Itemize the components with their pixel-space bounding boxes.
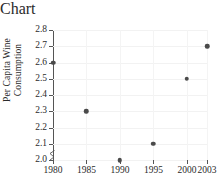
y-axis-tick-label: 2.5 xyxy=(35,74,47,84)
y-axis-tick xyxy=(49,95,53,96)
y-axis-tick-label: 2.7 xyxy=(35,42,47,52)
x-axis-title: Year xyxy=(0,181,220,182)
x-axis-tick xyxy=(207,160,208,164)
y-axis-tick xyxy=(49,111,53,112)
y-axis-tick xyxy=(49,144,53,145)
x-axis-tick-label: 1980 xyxy=(44,166,63,176)
data-point xyxy=(205,44,210,49)
x-axis-tick-label: 1995 xyxy=(144,166,163,176)
y-axis-tick-label: 2.0 xyxy=(35,155,47,165)
x-axis-tick-label: 2000 xyxy=(177,166,196,176)
data-point xyxy=(51,60,56,65)
y-axis-tick-label: 2.6 xyxy=(35,58,47,68)
y-axis-tick-label: 2.8 xyxy=(35,25,47,35)
data-point xyxy=(84,109,89,114)
x-axis-tick-label: 1990 xyxy=(110,166,129,176)
x-axis-tick xyxy=(153,160,154,164)
data-point xyxy=(151,142,156,147)
x-axis-tick-label: 1985 xyxy=(77,166,96,176)
x-axis-tick-label: 2003 xyxy=(198,166,217,176)
y-axis-tick-label: 2.2 xyxy=(35,123,47,133)
gridline-horizontal xyxy=(53,63,207,64)
data-point xyxy=(118,158,123,163)
y-axis-tick-label: 2.4 xyxy=(35,90,47,100)
y-axis-tick xyxy=(49,128,53,129)
gridline-horizontal xyxy=(53,46,207,47)
gridline-vertical xyxy=(187,30,188,160)
gridline-vertical xyxy=(120,30,121,160)
y-axis-tick xyxy=(49,46,53,47)
data-point xyxy=(185,77,190,82)
gridline-horizontal xyxy=(53,144,207,145)
axis-break-icon xyxy=(49,149,59,161)
x-axis-tick xyxy=(86,160,87,164)
y-axis-title-line-1: Per Capita Wine xyxy=(2,10,13,130)
plot-area: 2.02.12.22.32.42.52.62.72.8 198019851990… xyxy=(53,30,207,160)
gridline-vertical xyxy=(153,30,154,160)
gridline-vertical xyxy=(86,30,87,160)
y-axis-title: Per Capita Wine Consumption xyxy=(2,10,30,130)
gridline-horizontal xyxy=(53,160,207,161)
gridline-horizontal xyxy=(53,128,207,129)
x-axis-tick xyxy=(187,160,188,164)
y-axis-tick-label: 2.1 xyxy=(35,139,47,149)
gridline-horizontal xyxy=(53,95,207,96)
y-axis-tick xyxy=(49,30,53,31)
y-axis-tick-label: 2.3 xyxy=(35,107,47,117)
gridline-vertical xyxy=(207,30,208,160)
y-axis-tick xyxy=(49,79,53,80)
y-axis-title-line-2: Consumption xyxy=(13,10,24,130)
scatter-chart: Per Capita Wine Consumption 2.02.12.22.3… xyxy=(0,18,220,182)
gridline-horizontal xyxy=(53,111,207,112)
gridline-horizontal xyxy=(53,30,207,31)
